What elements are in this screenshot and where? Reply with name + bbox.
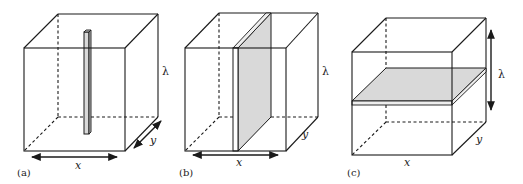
confinement-diagram: x y λ (a) x y λ (b) bbox=[0, 0, 523, 184]
panel-label-c: (c) bbox=[347, 167, 361, 178]
front-face bbox=[24, 48, 125, 151]
rod bbox=[84, 30, 91, 134]
horizontal-slab bbox=[352, 68, 486, 105]
vertical-slab bbox=[233, 13, 271, 151]
panel-b bbox=[185, 13, 318, 155]
panel-c bbox=[352, 18, 491, 155]
y-label-b: y bbox=[301, 128, 309, 141]
panel-label-b: (b) bbox=[179, 167, 193, 178]
panel-a bbox=[24, 14, 161, 157]
x-label-a: x bbox=[75, 159, 82, 172]
x-label-b: x bbox=[236, 156, 243, 169]
y-label-c: y bbox=[475, 133, 483, 146]
x-label-c: x bbox=[404, 156, 411, 169]
lambda-label-c: λ bbox=[498, 68, 505, 81]
panel-label-a: (a) bbox=[17, 167, 31, 178]
y-dimension-arrow bbox=[134, 121, 161, 148]
lambda-label-a: λ bbox=[162, 65, 169, 78]
lambda-label-b: λ bbox=[322, 65, 329, 78]
y-label-a: y bbox=[149, 134, 157, 147]
